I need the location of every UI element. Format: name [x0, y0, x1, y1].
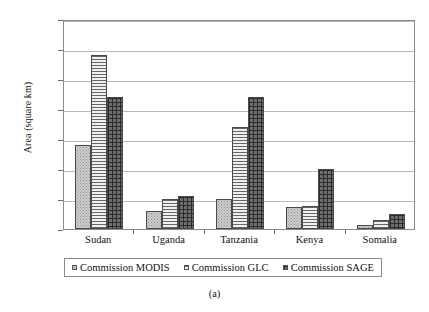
- bar-group: [134, 21, 204, 229]
- legend-label: Commission MODIS: [80, 262, 170, 273]
- legend-item[interactable]: Commission MODIS: [72, 262, 170, 273]
- legend-label: Commission SAGE: [291, 262, 374, 273]
- bar[interactable]: [162, 199, 178, 229]
- legend: Commission MODISCommission GLCCommission…: [64, 258, 382, 277]
- y-axis-tick-mark: [58, 230, 63, 231]
- bar[interactable]: [357, 225, 373, 230]
- bar[interactable]: [318, 169, 334, 229]
- bar-group: [275, 21, 345, 229]
- legend-item[interactable]: Commission SAGE: [283, 262, 374, 273]
- bar[interactable]: [248, 97, 264, 229]
- legend-swatch-icon: [283, 265, 288, 270]
- bar-groups: [64, 21, 414, 229]
- figure: Area (square km) 01000020000300004000050…: [0, 0, 429, 312]
- bar[interactable]: [216, 199, 232, 229]
- legend-swatch-icon: [184, 265, 189, 270]
- x-axis-tick-mark: [204, 230, 205, 234]
- bar[interactable]: [107, 97, 123, 229]
- bar-group: [205, 21, 275, 229]
- bar[interactable]: [232, 127, 248, 229]
- x-axis-tick-mark: [274, 230, 275, 234]
- bar[interactable]: [286, 207, 302, 230]
- bar[interactable]: [302, 206, 318, 229]
- bar[interactable]: [75, 145, 91, 229]
- bar[interactable]: [178, 196, 194, 229]
- bar-group: [346, 21, 416, 229]
- x-axis-tick-mark: [345, 230, 346, 234]
- legend-item[interactable]: Commission GLC: [184, 262, 269, 273]
- bar[interactable]: [91, 55, 107, 229]
- bar-group: [64, 21, 134, 229]
- legend-label: Commission GLC: [192, 262, 269, 273]
- x-axis-tick-mark: [133, 230, 134, 234]
- legend-swatch-icon: [72, 265, 77, 270]
- figure-caption: (a): [0, 288, 429, 299]
- bar[interactable]: [373, 220, 389, 229]
- plot-area: [63, 20, 415, 230]
- x-axis-category-label: Somalia: [335, 234, 425, 245]
- y-axis-title: Area (square km): [22, 48, 33, 188]
- bar[interactable]: [146, 211, 162, 229]
- bar[interactable]: [389, 214, 405, 229]
